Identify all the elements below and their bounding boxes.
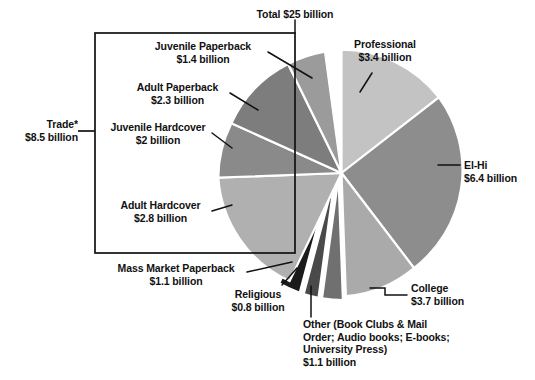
trade-group-name: Trade* xyxy=(47,118,79,130)
label-adult-paperback-value: $2.3 billion xyxy=(151,94,204,106)
label-el-hi-value: $6.4 billion xyxy=(464,172,517,184)
label-adult-hardcover-name: Adult Hardcover xyxy=(120,199,200,211)
label-other-value: $1.1 billion xyxy=(303,356,356,368)
label-el-hi-name: El-Hi xyxy=(464,159,487,171)
label-mass-market-paperback: Mass Market Paperback$1.1 billion xyxy=(103,262,249,287)
label-el-hi: El-Hi$6.4 billion xyxy=(464,159,534,184)
label-other-name: Other (Book Clubs & Mail Order; Audio bo… xyxy=(303,318,450,355)
label-religious: Religious$0.8 billion xyxy=(218,288,298,313)
label-adult-paperback-name: Adult Paperback xyxy=(137,81,218,93)
label-adult-hardcover: Adult Hardcover$2.8 billion xyxy=(108,199,213,224)
label-professional-value: $3.4 billion xyxy=(358,51,411,63)
label-college: College$3.7 billion xyxy=(411,282,521,307)
label-juvenile-paperback-value: $1.4 billion xyxy=(176,53,229,65)
label-juvenile-paperback-name: Juvenile Paperback xyxy=(155,40,251,52)
label-juvenile-hardcover-name: Juvenile Hardcover xyxy=(110,121,205,133)
label-college-value: $3.7 billion xyxy=(411,295,464,307)
label-professional: Professional$3.4 billion xyxy=(330,38,440,63)
label-juvenile-paperback: Juvenile Paperback$1.4 billion xyxy=(138,40,268,65)
label-juvenile-hardcover-value: $2 billion xyxy=(136,134,181,146)
pie-slices xyxy=(218,50,462,301)
label-other: Other (Book Clubs & Mail Order; Audio bo… xyxy=(303,318,483,368)
label-professional-name: Professional xyxy=(354,38,416,50)
label-mass-market-paperback-name: Mass Market Paperback xyxy=(118,262,235,274)
label-college-name: College xyxy=(411,282,448,294)
label-adult-paperback: Adult Paperback$2.3 billion xyxy=(125,81,230,106)
label-religious-value: $0.8 billion xyxy=(231,301,284,313)
chart-title: Total $25 billion xyxy=(200,8,390,21)
trade-group-value: $8.5 billion xyxy=(25,131,78,143)
label-religious-name: Religious xyxy=(235,288,281,300)
label-mass-market-paperback-value: $1.1 billion xyxy=(149,275,202,287)
label-juvenile-hardcover: Juvenile Hardcover$2 billion xyxy=(103,121,213,146)
trade-group-label: Trade*$8.5 billion xyxy=(0,118,78,143)
label-adult-hardcover-value: $2.8 billion xyxy=(134,212,187,224)
chart-canvas: Total $25 billion Trade*$8.5 billion Juv… xyxy=(0,0,535,380)
